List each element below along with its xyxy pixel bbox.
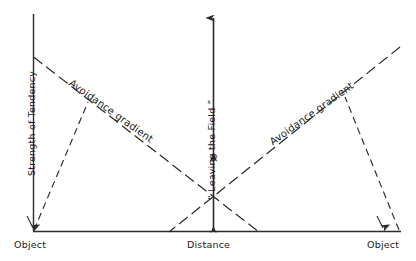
- object-label-right: Object: [367, 240, 399, 250]
- object-left-arrow: [27, 216, 33, 228]
- object-right-arrow: [377, 216, 383, 228]
- avoidance-gradient-left-line: [34, 57, 260, 232]
- x-axis-label: Distance: [187, 240, 230, 250]
- approach-gradient-left-line: [34, 102, 88, 230]
- object-label-left: Object: [14, 240, 46, 250]
- approach-gradient-right-line: [345, 97, 399, 230]
- center-axis-label: “ Leaving the Field ”: [207, 99, 217, 200]
- conflict-gradient-figure: Strength of Tendency “ Leaving the Field…: [0, 0, 416, 261]
- y-axis-label: Strength of Tendency: [27, 71, 37, 176]
